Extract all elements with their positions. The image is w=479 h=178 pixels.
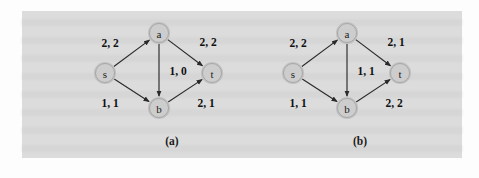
edge-label-s-a: 2, 2 xyxy=(101,37,119,49)
node-label-t: t xyxy=(398,68,401,80)
flow-network-diagram-b: 2, 21, 11, 12, 12, 2sabt (b) xyxy=(250,11,470,158)
node-label-a: a xyxy=(345,28,350,40)
node-label-s: s xyxy=(291,68,295,80)
edge-label-b-t: 2, 1 xyxy=(197,97,215,109)
edge-label-s-b: 1, 1 xyxy=(101,97,119,109)
flow-network-diagram-a: 2, 21, 11, 02, 22, 1sabt (a) xyxy=(62,11,282,158)
node-label-s: s xyxy=(103,68,107,80)
edge-label-a-t: 2, 2 xyxy=(199,36,217,48)
node-label-b: b xyxy=(344,103,350,115)
figure-page: 2, 21, 11, 02, 22, 1sabt (a) 2, 21, 11, … xyxy=(0,0,479,178)
edge-label-a-b: 1, 1 xyxy=(357,65,375,77)
edge-label-s-a: 2, 2 xyxy=(289,37,307,49)
edge-a-to-t xyxy=(356,40,391,66)
edge-s-to-a xyxy=(114,40,150,66)
edge-s-to-b xyxy=(114,79,149,101)
edge-a-to-t xyxy=(168,40,203,66)
figure-caption-a: (a) xyxy=(62,135,282,147)
node-label-a: a xyxy=(157,28,162,40)
node-label-t: t xyxy=(210,68,213,80)
edge-s-to-b xyxy=(302,79,337,101)
edge-s-to-a xyxy=(302,40,338,66)
edge-label-a-t: 2, 1 xyxy=(387,36,405,48)
node-label-b: b xyxy=(156,103,162,115)
edge-label-b-t: 2, 2 xyxy=(385,97,403,109)
edge-label-s-b: 1, 1 xyxy=(289,97,307,109)
figure-caption-b: (b) xyxy=(250,135,470,147)
edge-label-a-b: 1, 0 xyxy=(169,65,187,77)
figure-panel: 2, 21, 11, 02, 22, 1sabt (a) 2, 21, 11, … xyxy=(22,11,462,158)
